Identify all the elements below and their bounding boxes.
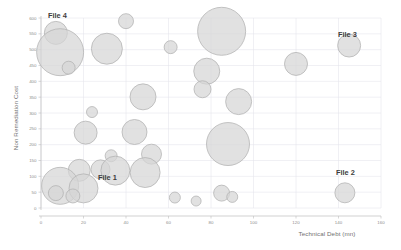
annotation-label: File 2 <box>336 168 355 177</box>
bubble-point <box>285 52 308 75</box>
bubble-point <box>119 14 134 29</box>
bubble-point <box>194 58 220 84</box>
bubble-point <box>122 120 147 145</box>
y-tick-label: 100 <box>29 174 37 179</box>
y-tick-label: 250 <box>29 126 37 131</box>
y-tick-labels: 050100150200250300350400450500550600 <box>29 16 37 211</box>
annotation-label: File 3 <box>338 30 357 39</box>
x-tick-label: 40 <box>124 220 129 225</box>
bubble-point <box>87 107 98 118</box>
x-axis-title: Technical Debt (mn) <box>299 230 356 237</box>
bubble-chart: 050100150200250300350400450500550600 020… <box>0 0 401 250</box>
y-tick-label: 150 <box>29 158 37 163</box>
x-tick-marks <box>41 216 381 219</box>
bubble-point <box>335 183 355 203</box>
bubble-point <box>207 123 250 166</box>
y-tick-label: 0 <box>34 206 37 211</box>
bubble-point <box>226 89 252 115</box>
x-tick-label: 140 <box>335 220 343 225</box>
bubble-point <box>62 61 75 74</box>
bubble-point <box>37 29 84 76</box>
y-tick-label: 50 <box>32 190 37 195</box>
bubble-point <box>191 196 201 206</box>
x-tick-label: 80 <box>209 220 214 225</box>
bubble-point <box>74 121 97 144</box>
x-tick-labels: 020406080100120140160 <box>40 220 385 225</box>
annotation-label: File 4 <box>48 11 68 20</box>
bubble-point <box>169 192 180 203</box>
bubble-point <box>164 41 177 54</box>
x-tick-label: 120 <box>292 220 300 225</box>
y-tick-label: 300 <box>29 111 37 116</box>
x-tick-label: 0 <box>40 220 43 225</box>
bubble-point <box>66 189 80 203</box>
x-tick-label: 60 <box>166 220 171 225</box>
y-tick-label: 550 <box>29 31 37 36</box>
x-tick-label: 100 <box>250 220 258 225</box>
y-tick-label: 350 <box>29 95 37 100</box>
chart-canvas: 050100150200250300350400450500550600 020… <box>0 0 401 250</box>
bubble-point <box>48 186 63 201</box>
annotation-label: File 1 <box>98 173 117 182</box>
bubble-point <box>194 81 211 98</box>
bubble-point <box>198 7 246 55</box>
x-tick-label: 160 <box>377 220 385 225</box>
x-tick-label: 20 <box>81 220 86 225</box>
y-tick-label: 200 <box>29 142 37 147</box>
y-tick-label: 500 <box>29 47 37 52</box>
y-tick-label: 600 <box>29 16 37 21</box>
bubble-point <box>91 33 122 64</box>
bubble-point <box>130 84 156 110</box>
y-tick-label: 400 <box>29 79 37 84</box>
bubble-point <box>227 191 238 202</box>
bubble-point <box>130 158 160 188</box>
y-tick-label: 450 <box>29 63 37 68</box>
y-axis-title: Non Remediation Cost <box>12 86 19 150</box>
